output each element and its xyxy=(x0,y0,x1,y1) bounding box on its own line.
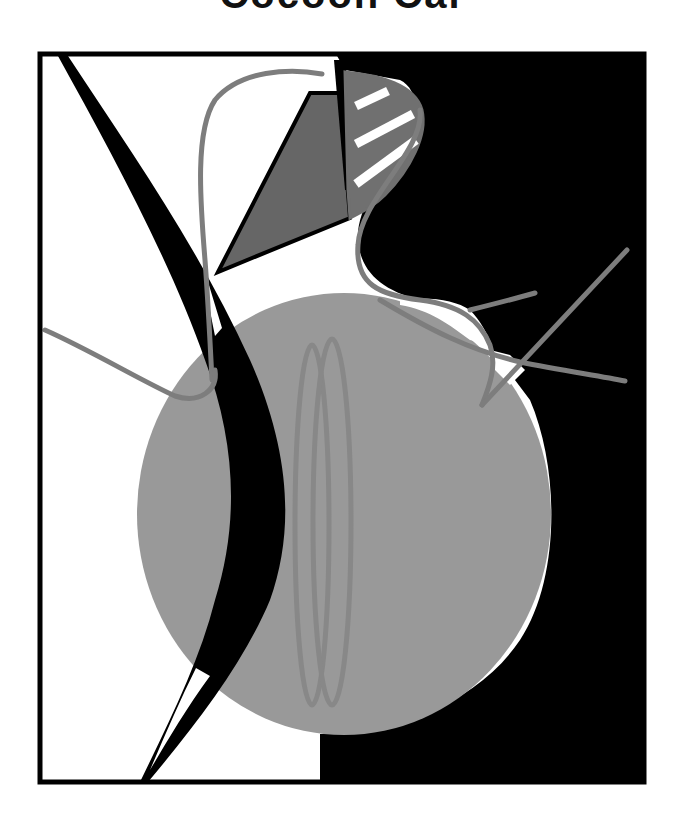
abstract-artwork xyxy=(0,0,681,832)
